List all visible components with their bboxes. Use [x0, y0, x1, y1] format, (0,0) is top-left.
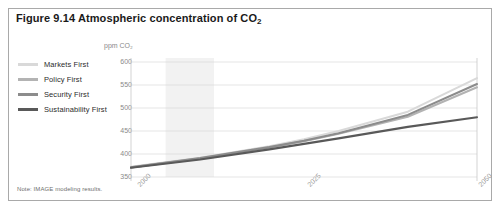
- chart-plot-area: ppm CO₂ 600 550 500 450 400 350 2000 202…: [0, 0, 501, 211]
- chart-svg: [0, 0, 501, 211]
